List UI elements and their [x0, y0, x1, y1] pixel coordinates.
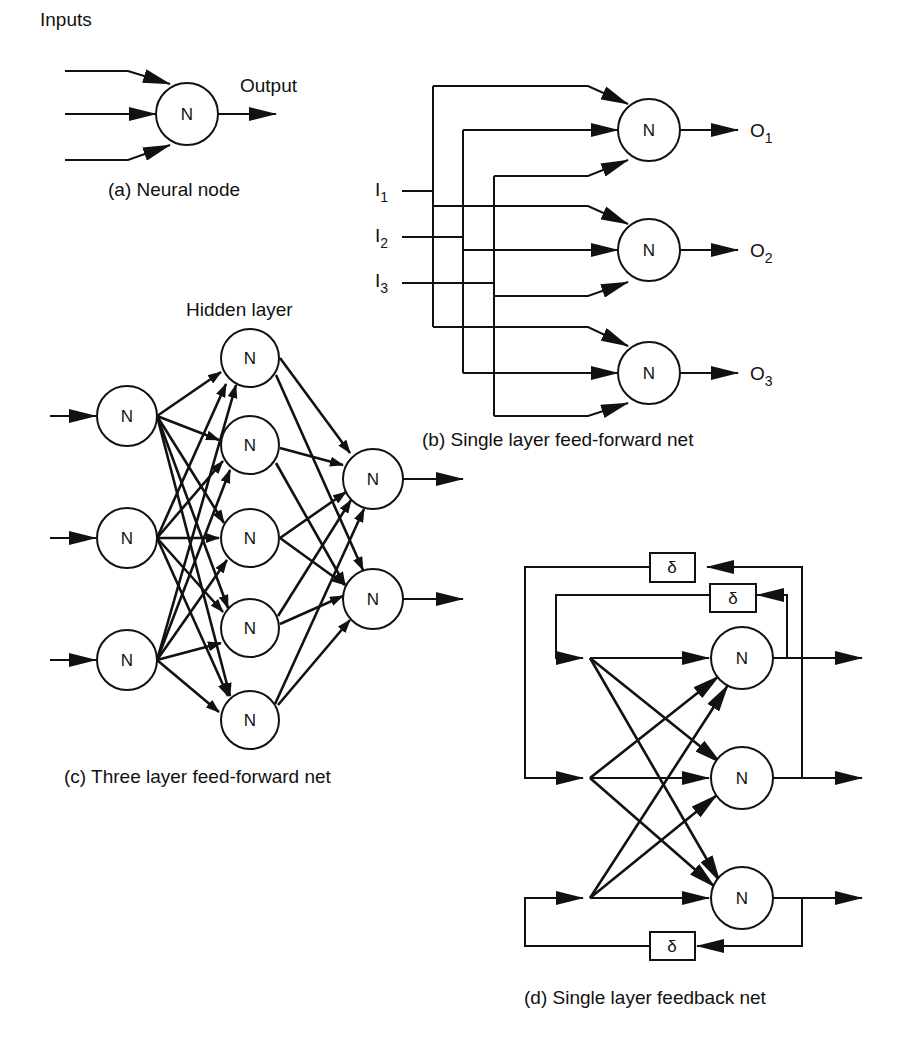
edge-i1-n1 — [433, 86, 628, 104]
node-label: N — [121, 529, 133, 548]
node-label: N — [121, 651, 133, 670]
hidden-layer-label: Hidden layer — [186, 299, 293, 320]
input-arrow-1 — [65, 71, 170, 84]
input-label-3: I3 — [375, 270, 388, 296]
node-label: N — [367, 590, 379, 609]
neural-network-figure: Inputs Output N (a) Neural node I1 I2 I3 — [0, 0, 904, 1052]
panel-d-single-layer-feedback: δ δ δ N N N (d) Single layer feedback ne… — [524, 553, 862, 1008]
feedback-cross-edges — [590, 658, 728, 898]
input-arrow-3 — [65, 145, 170, 160]
node-label: N — [643, 121, 655, 140]
delay-label: δ — [667, 937, 676, 956]
caption-d: (d) Single layer feedback net — [524, 987, 767, 1008]
node-label: N — [244, 619, 256, 638]
input-label-2: I2 — [375, 225, 388, 251]
delay-label: δ — [728, 589, 737, 608]
node-label: N — [643, 364, 655, 383]
node-label: N — [181, 105, 193, 124]
node-label: N — [367, 470, 379, 489]
output-label-3: O3 — [750, 363, 773, 389]
node-label: N — [244, 711, 256, 730]
output-label: Output — [240, 75, 298, 96]
node-label: N — [244, 529, 256, 548]
edge-i3-n2 — [494, 282, 628, 296]
feedback-return-3 — [525, 898, 650, 946]
panel-a-neural-node: Inputs Output N (a) Neural node — [40, 9, 298, 200]
edge-i3-n3 — [494, 403, 628, 416]
caption-c: (c) Three layer feed-forward net — [64, 766, 332, 787]
panel-b-single-layer-feedforward: I1 I2 I3 N N N O1 O2 O — [375, 86, 773, 450]
node-label: N — [121, 407, 133, 426]
caption-a: (a) Neural node — [108, 179, 240, 200]
node-label: N — [736, 649, 748, 668]
output-label-1: O1 — [750, 120, 773, 146]
input-label-1: I1 — [375, 179, 388, 205]
hidden-output-edges — [275, 358, 364, 705]
delay-label: δ — [667, 558, 676, 577]
output-label-2: O2 — [750, 240, 773, 266]
caption-b: (b) Single layer feed-forward net — [422, 429, 694, 450]
feedback-return-1 — [556, 595, 710, 658]
node-label: N — [244, 436, 256, 455]
edge-i3-n1 — [494, 160, 628, 176]
node-label: N — [736, 769, 748, 788]
inputs-label: Inputs — [40, 9, 92, 30]
node-label: N — [244, 349, 256, 368]
node-label: N — [643, 241, 655, 260]
node-label: N — [736, 889, 748, 908]
panel-c-three-layer-feedforward: Hidden layer — [50, 299, 463, 787]
